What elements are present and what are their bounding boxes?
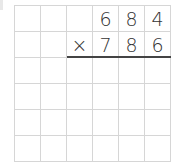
grid-cell[interactable] <box>15 6 41 32</box>
grid-cell[interactable] <box>41 6 67 32</box>
answer-cell[interactable] <box>145 84 171 110</box>
answer-cell[interactable] <box>145 110 171 136</box>
answer-cell[interactable] <box>67 84 93 110</box>
grid-cell[interactable] <box>15 32 41 58</box>
answer-cell[interactable] <box>41 110 67 136</box>
multiplication-grid: 6 8 4 × 7 8 6 <box>14 5 171 162</box>
multiplier-hundreds: 7 <box>93 32 119 58</box>
answer-cell[interactable] <box>145 58 171 84</box>
answer-cell[interactable] <box>15 84 41 110</box>
answer-cell[interactable] <box>93 136 119 162</box>
multiplier-ones: 6 <box>145 32 171 58</box>
times-operator: × <box>67 32 93 58</box>
answer-cell[interactable] <box>41 84 67 110</box>
multiplier-tens: 8 <box>119 32 145 58</box>
grid-cell[interactable] <box>41 32 67 58</box>
product-underline <box>67 56 171 58</box>
answer-cell[interactable] <box>15 110 41 136</box>
grid-cell[interactable] <box>67 6 93 32</box>
answer-cell[interactable] <box>15 136 41 162</box>
answer-cell[interactable] <box>145 136 171 162</box>
answer-cell[interactable] <box>119 58 145 84</box>
answer-cell[interactable] <box>67 110 93 136</box>
answer-cell[interactable] <box>67 58 93 84</box>
answer-cell[interactable] <box>41 136 67 162</box>
multiplicand-ones: 4 <box>145 6 171 32</box>
answer-cell[interactable] <box>119 84 145 110</box>
answer-cell[interactable] <box>67 136 93 162</box>
edge-mark <box>0 0 3 10</box>
multiplicand-tens: 8 <box>119 6 145 32</box>
answer-cell[interactable] <box>15 58 41 84</box>
answer-cell[interactable] <box>41 58 67 84</box>
answer-cell[interactable] <box>119 110 145 136</box>
multiplicand-hundreds: 6 <box>93 6 119 32</box>
answer-cell[interactable] <box>93 58 119 84</box>
answer-cell[interactable] <box>93 84 119 110</box>
answer-cell[interactable] <box>119 136 145 162</box>
answer-cell[interactable] <box>93 110 119 136</box>
